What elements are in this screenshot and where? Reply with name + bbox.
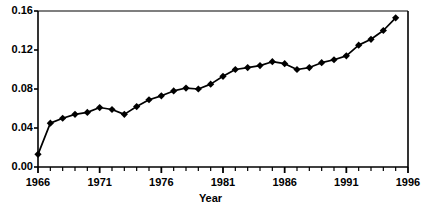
y-tick-label: 0.08 [1,83,33,94]
data-point-marker [34,151,41,158]
plot-frame [38,11,408,167]
x-tick-label: 1966 [18,177,58,188]
data-point-marker [59,115,66,122]
data-point-marker [96,104,103,111]
data-point-marker [182,84,189,91]
data-point-marker [256,62,263,69]
data-point-marker [318,59,325,66]
data-point-marker [170,87,177,94]
data-point-marker [158,92,165,99]
x-axis-ticks [38,167,408,173]
data-point-marker [244,64,251,71]
x-tick-label: 1996 [388,177,421,188]
data-markers [34,14,399,158]
x-tick-label: 1976 [141,177,181,188]
data-point-marker [71,111,78,118]
y-tick-label: 0.12 [1,44,33,55]
y-tick-label: 0.00 [1,161,33,172]
data-point-marker [232,66,239,73]
data-point-marker [330,56,337,63]
data-point-marker [306,64,313,71]
data-point-marker [281,60,288,67]
data-point-marker [195,85,202,92]
x-tick-label: 1986 [265,177,305,188]
data-point-marker [84,109,91,116]
y-tick-label: 0.04 [1,122,33,133]
x-tick-label: 1991 [326,177,366,188]
data-point-marker [108,106,115,113]
x-axis-title: Year [0,192,421,204]
data-point-marker [269,58,276,65]
x-tick-label: 1981 [203,177,243,188]
data-point-marker [293,66,300,73]
line-chart: 0.000.040.080.120.16 1966197119761981198… [0,0,421,215]
y-tick-label: 0.16 [1,5,33,16]
data-line [38,18,396,154]
data-point-marker [47,120,54,127]
x-tick-label: 1971 [80,177,120,188]
data-point-marker [145,96,152,103]
